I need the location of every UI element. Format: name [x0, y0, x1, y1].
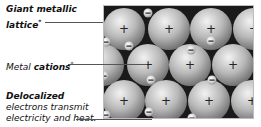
label-metal-cations: Metal cations*: [6, 58, 73, 73]
plus-icon: +: [206, 22, 216, 36]
minus-icon: [104, 76, 107, 77]
cation-sphere: +: [148, 8, 190, 50]
electron-sphere: [125, 42, 134, 51]
plus-icon: +: [249, 22, 254, 36]
minus-icon: [147, 112, 152, 113]
minus-icon: [190, 118, 195, 119]
cation-sphere: +: [188, 80, 230, 119]
electron-sphere: [208, 76, 217, 85]
electrons-title: Delocalized: [6, 91, 64, 102]
cation-sphere: +: [104, 80, 145, 119]
minus-icon: [189, 50, 194, 51]
minus-icon: [149, 80, 154, 81]
plus-icon: +: [204, 94, 214, 108]
plus-icon: +: [143, 58, 153, 72]
minus-icon: [104, 42, 109, 43]
cation-sphere: +: [104, 44, 124, 86]
cations-leader-line: [68, 64, 147, 65]
lattice-leader-line: [45, 22, 105, 23]
electrons-line1: electrons transmit: [6, 102, 88, 113]
plus-icon: +: [119, 94, 129, 108]
plus-icon: +: [228, 58, 238, 72]
minus-icon: [210, 80, 215, 81]
minus-icon: [209, 41, 214, 42]
electron-sphere: [187, 46, 196, 55]
lattice-label-line2: lattice*: [6, 16, 41, 31]
lattice-label-line1: Giant metallic: [6, 4, 77, 15]
metallic-lattice-diagram: ++++++++++++: [103, 5, 254, 119]
minus-icon: [146, 13, 151, 14]
cation-sphere: +: [212, 44, 254, 86]
lattice-illustration: ++++++++++++: [104, 6, 254, 119]
plus-icon: +: [185, 58, 195, 72]
plus-icon: +: [247, 94, 254, 108]
plus-icon: +: [164, 22, 174, 36]
plus-icon: +: [104, 58, 108, 72]
minus-icon: [104, 115, 109, 116]
electron-sphere: [207, 37, 216, 46]
electron-sphere: [147, 76, 156, 85]
cation-sphere: +: [233, 8, 254, 50]
electrons-leader-line: [76, 119, 152, 120]
plus-icon: +: [119, 22, 129, 36]
minus-icon: [127, 46, 132, 47]
plus-icon: +: [161, 94, 171, 108]
electron-sphere: [145, 108, 154, 117]
electron-sphere: [144, 9, 153, 18]
